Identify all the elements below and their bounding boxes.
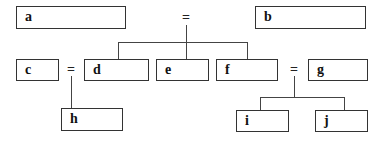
connector-top-vertical xyxy=(186,25,187,42)
connector-to-j xyxy=(344,97,345,110)
equals-right: = xyxy=(290,63,298,77)
box-a: a xyxy=(16,6,126,29)
box-j-label: j xyxy=(324,113,329,128)
box-f: f xyxy=(216,59,278,81)
box-e-label: e xyxy=(165,62,171,77)
box-b-label: b xyxy=(264,9,272,24)
box-a-label: a xyxy=(25,9,32,24)
box-c: c xyxy=(16,59,59,81)
box-g-label: g xyxy=(317,62,324,77)
box-h-label: h xyxy=(70,111,78,126)
equals-left: = xyxy=(67,63,75,77)
box-d: d xyxy=(84,59,149,81)
connector-to-d xyxy=(118,42,119,59)
connector-to-e xyxy=(186,42,187,59)
box-b: b xyxy=(255,6,366,29)
connector-to-i xyxy=(260,97,261,110)
box-d-label: d xyxy=(93,62,101,77)
box-c-label: c xyxy=(25,62,31,77)
equals-top: = xyxy=(182,11,190,25)
connector-right-vertical xyxy=(294,76,295,97)
connector-right-horizontal xyxy=(260,97,345,98)
box-h: h xyxy=(61,108,123,131)
connector-top-horizontal xyxy=(118,42,248,43)
box-j: j xyxy=(315,110,368,132)
connector-left-vertical xyxy=(71,76,72,108)
box-e: e xyxy=(156,59,209,81)
connector-to-f xyxy=(247,42,248,59)
box-f-label: f xyxy=(225,62,230,77)
box-i: i xyxy=(236,110,289,132)
box-i-label: i xyxy=(245,113,249,128)
box-g: g xyxy=(308,59,368,81)
